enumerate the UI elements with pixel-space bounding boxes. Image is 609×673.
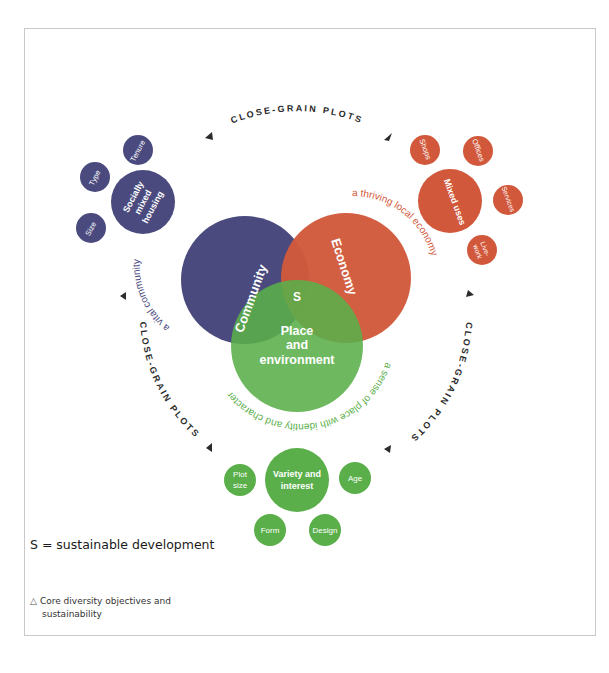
svg-text:CLOSE-GRAIN PLOTS: CLOSE-GRAIN PLOTS [408,322,474,445]
triangle-marker-icon [466,290,474,297]
sustainable-s-label: S [293,290,301,304]
variety-label-1: Variety and [273,469,321,479]
triangle-marker-icon [384,133,392,141]
plot-size-label-2: size [233,481,248,490]
svg-text:CLOSE-GRAIN PLOTS: CLOSE-GRAIN PLOTS [138,321,202,440]
variety-label-2: interest [281,481,314,491]
diversity-diagram: Community Economy S Place and environmen… [0,0,609,673]
triangle-marker-icon [384,445,391,453]
age-label: Age [348,474,363,483]
triangle-marker-icon [120,292,126,300]
community-tagline: a vital community [131,259,172,334]
design-label: Design [313,526,338,535]
place-label-2: and [286,338,308,352]
form-label: Form [261,526,280,535]
caption-line-2: sustainability [30,608,230,621]
svg-text:CLOSE-GRAIN PLOTS: CLOSE-GRAIN PLOTS [229,103,365,125]
triangle-outline-icon: △ [30,596,37,606]
ring-label-top: CLOSE-GRAIN PLOTS [205,103,392,141]
plot-size-label-1: Plot [233,470,248,479]
caption-line-1: Core diversity objectives and [40,596,171,606]
place-label-1: Place [281,324,314,338]
housing-cluster: Socially mixed housing Tenure Type Size [76,135,175,243]
variety-interest-circle [265,448,329,512]
live-work-circle [467,235,497,265]
place-label-3: environment [259,353,335,367]
legend-text: S = sustainable development [30,537,214,552]
variety-cluster: Variety and interest Plot size Age Form … [224,448,371,546]
plot-size-circle [224,464,256,496]
triangle-marker-icon [205,132,213,140]
triangle-marker-icon [206,443,212,452]
figure-caption: △Core diversity objectives and sustainab… [30,595,230,621]
